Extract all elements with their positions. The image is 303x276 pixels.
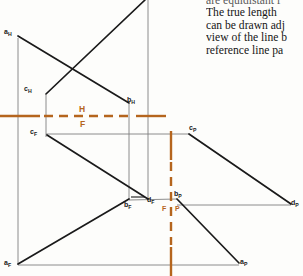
- reference-label-f-vertical: F: [162, 205, 166, 212]
- reference-label-p: P: [175, 205, 180, 212]
- point-label-a-h: aH: [4, 28, 12, 35]
- body-text-line-1: The true length: [206, 7, 303, 19]
- body-text-line-4: reference line pa: [206, 45, 303, 57]
- edge-ab-front-view: [18, 199, 129, 264]
- point-label-d-f: dF: [147, 196, 154, 203]
- edge-ab-profile-view: [177, 199, 239, 263]
- edge-cd-front-view: [47, 135, 148, 199]
- body-text-line-3: view of the line b: [206, 32, 303, 44]
- reference-label-f-horizontal: F: [80, 119, 85, 129]
- point-label-c-p: cP: [189, 124, 196, 131]
- point-label-d-p: dP: [291, 199, 299, 206]
- point-label-b-h: bH: [127, 96, 135, 103]
- edge-cd-top-view: [46, 0, 145, 94]
- point-label-a-p: aP: [240, 258, 247, 265]
- point-label-c-h: cH: [24, 85, 32, 92]
- reference-label-h: H: [79, 104, 85, 114]
- point-label-b-f: bF: [124, 201, 131, 208]
- point-label-a-f: aF: [4, 259, 11, 266]
- point-label-b-p: bP: [174, 190, 182, 197]
- edge-cd-profile-view: [189, 134, 291, 204]
- body-text-block: are equidistant f The true length can be…: [206, 0, 303, 57]
- edge-ab-top-view: [18, 36, 129, 103]
- figure-page: are equidistant f The true length can be…: [0, 0, 303, 276]
- point-label-c-f: cF: [30, 128, 37, 135]
